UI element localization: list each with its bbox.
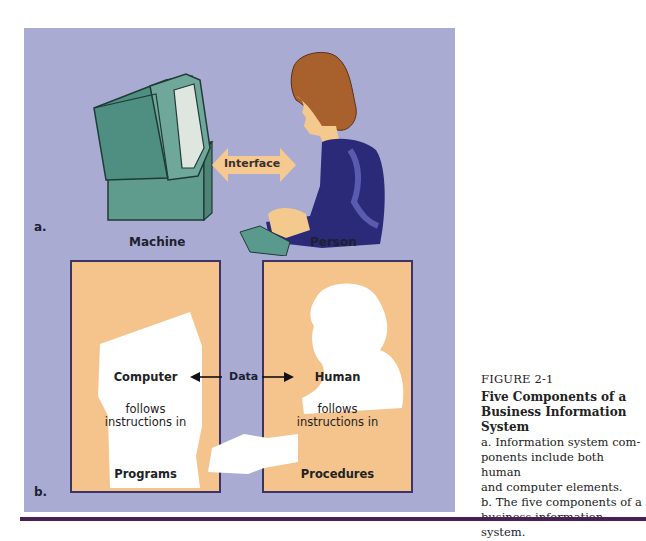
caption-line: business information system.: [481, 510, 646, 540]
human-follows: follows: [264, 402, 411, 416]
papers-shape: [208, 428, 298, 474]
programs-label: Programs: [72, 467, 219, 481]
computer-silhouette: [90, 306, 222, 491]
caption-line: a. Information system com-: [481, 435, 646, 450]
human-instructions: instructions in: [264, 415, 411, 429]
data-label: Data: [229, 370, 258, 383]
figure-panel: Interface a. Machine Person Computer fol…: [24, 28, 455, 512]
caption-line: b. The five components of a: [481, 495, 646, 510]
part-b-label: b.: [34, 485, 47, 499]
computer-instructions: instructions in: [72, 415, 219, 429]
figure-number: FIGURE 2-1: [481, 372, 646, 387]
figure-title: Five Components of a Business Informatio…: [481, 390, 646, 435]
person-label: Person: [310, 235, 357, 249]
part-a-label: a.: [34, 220, 47, 234]
figure-caption: FIGURE 2-1 Five Components of a Business…: [481, 372, 646, 540]
bottom-rule: [20, 517, 646, 521]
person-illustration: [210, 46, 410, 256]
computer-follows: follows: [72, 402, 219, 416]
machine-label: Machine: [129, 235, 186, 249]
caption-line: and computer elements.: [481, 480, 646, 495]
caption-line: ponents include both human: [481, 450, 646, 480]
